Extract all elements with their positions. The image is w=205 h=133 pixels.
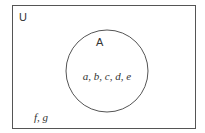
universe-label: U xyxy=(19,11,27,23)
outside-elements: f, g xyxy=(34,111,49,123)
venn-diagram: U A a, b, c, d, e f, g xyxy=(0,0,205,133)
set-a-label: A xyxy=(96,36,104,48)
set-a-elements: a, b, c, d, e xyxy=(83,70,131,82)
